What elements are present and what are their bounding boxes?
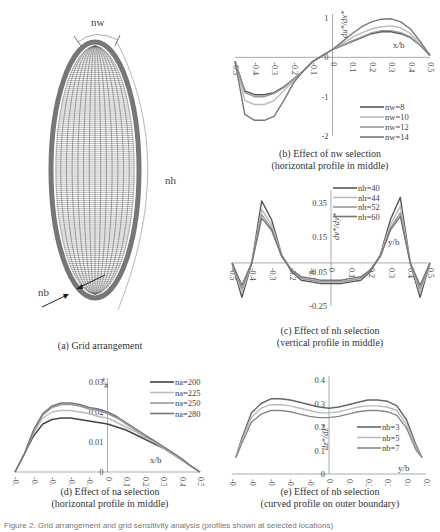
x-tick-label: 0 [104,477,113,481]
x-tick-label: 0.4 [403,479,412,486]
legend: na=200na=225na=250na=280 [150,377,201,419]
x-tick-label: 0.3 [387,62,396,72]
y-tick-label: 1 [324,13,328,23]
x-tick-label: -0.3 [270,62,279,75]
panel-e-nb-effect: -0.5-0.4-0.3-0.2-0.100.10.20.30.40.50.40… [220,366,440,516]
chart-c: -0.5-0.4-0.3-0.2-0.100.10.20.30.40.50.35… [220,182,440,325]
x-tick-label: -0.3 [48,477,57,486]
panel-c-nh-effect: -0.5-0.4-0.3-0.2-0.100.10.20.30.40.50.35… [220,182,440,357]
panel-a-caption: (a) Grid arrangement [0,340,200,352]
nw-label: nw [91,16,105,28]
x-tick-label: 0.2 [364,479,373,486]
figure-caption: Figure 2. Grid arrangement and grid sens… [4,521,333,530]
legend: nb=3nb=5nb=7 [357,422,400,453]
x-axis-label: x/b [393,40,405,50]
y-tick-label: -2 [321,131,328,141]
legend-entry: na=250 [175,398,201,408]
y-tick-label: 0.35 [312,198,327,208]
x-tick-label: 0.1 [345,479,354,486]
y-axis-label: du*/dx* [339,10,349,38]
y-tick-label: 0.4 [314,375,325,385]
panel-b-caption: (b) Effect of nw selection (horizontal p… [220,148,440,172]
legend-entry: nw=14 [385,132,409,142]
legend-entry: nw=12 [385,122,409,132]
x-axis-label: y/b [398,463,410,473]
x-tick-label: 0.1 [122,477,131,486]
caption-line-1: (e) Effect of nb selection [220,486,440,498]
x-tick-label: -0.5 [11,477,20,486]
y-tick-label: -0.25 [309,301,327,311]
chart-e: -0.5-0.4-0.3-0.2-0.100.10.20.30.40.50.40… [220,366,440,486]
panel-b-nw-effect: -0.5-0.4-0.3-0.2-0.100.10.20.30.40.510-1… [220,0,440,180]
panel-c-caption: (c) Effect of nh selection (vertical pro… [220,325,440,349]
legend-entry: na=200 [175,377,201,387]
caption-line-2: (horizontal profile in middle) [220,160,440,172]
x-tick-label: 0.5 [422,479,431,486]
panel-d-na-effect: -0.5-0.4-0.3-0.2-0.100.10.20.30.40.50.03… [0,366,220,516]
legend-entry: nb=7 [382,443,400,453]
x-tick-label: 0.2 [368,62,377,72]
nh-label: nh [165,174,177,186]
chart-d: -0.5-0.4-0.3-0.2-0.100.10.20.30.40.50.03… [0,366,220,486]
x-tick-label: 0 [329,62,338,66]
y-tick-label: -1 [321,92,328,102]
x-tick-label: 0 [325,479,334,483]
legend-entry: nh=40 [358,183,380,193]
x-tick-label: 0.3 [159,477,168,486]
legend-entry: nh=52 [358,202,380,212]
legend: nh=40nh=44nh=52nh=60 [333,183,381,222]
x-tick-label: 0 [327,268,336,272]
x-tick-label: -0.1 [306,479,315,486]
caption-line-1: (d) Effect of na selection [0,486,220,498]
legend-entry: nb=3 [382,422,400,432]
caption-line-1: (c) Effect of nh selection [220,325,440,337]
x-tick-label: -0.2 [67,477,76,486]
legend-entry: na=225 [175,388,201,398]
x-tick-label: -0.3 [267,479,276,486]
caption-line-2: (vertical profile in middle) [220,337,440,349]
legend: nw=8nw=10nw=12nw=14 [360,102,409,142]
x-tick-label: -0.2 [286,479,295,486]
y-tick-label: 0.15 [312,232,327,242]
panel-a-grid-arrangement: nwnhnb (a) Grid arrangement [0,0,220,370]
x-tick-label: -0.4 [30,477,39,486]
y-tick-label: -0.05 [309,267,327,277]
legend-entry: nh=44 [358,193,381,203]
x-tick-label: 0.1 [347,268,356,278]
legend-entry: nb=5 [382,433,400,443]
x-tick-label: 0.1 [348,62,357,72]
y-tick-label: 0.01 [89,437,104,447]
y-axis-label: dz*/dz* [320,423,330,450]
panel-e-caption: (e) Effect of nb selection (curved profi… [220,486,440,510]
legend-entry: na=280 [175,409,201,419]
x-axis-label: x/b [150,455,162,465]
chart-b: -0.5-0.4-0.3-0.2-0.100.10.20.30.40.510-1… [220,0,440,145]
x-tick-label: -0.5 [228,479,237,486]
x-tick-label: -0.4 [251,62,260,75]
x-tick-label: -0.4 [248,479,257,486]
grid-mesh [51,42,139,298]
x-tick-label: 0.3 [383,479,392,486]
x-tick-label: -0.3 [268,268,277,281]
grid-ellipse-diagram: nwnhnb [0,0,220,370]
x-tick-label: 0.4 [407,62,416,72]
x-tick-label: 0.5 [426,62,435,72]
y-tick-label: 0 [321,469,325,479]
caption-line-1: (b) Effect of nw selection [220,148,440,160]
legend-entry: nh=60 [358,212,380,222]
x-axis-label: y/b [388,237,400,247]
nb-label: nb [38,286,50,298]
legend-entry: nw=10 [385,112,409,122]
caption-line-2: (horizontal profile in middle) [0,498,220,510]
y-tick-label: 0 [99,467,103,477]
x-tick-label: -0.1 [85,477,94,486]
panel-d-caption: (d) Effect of na selection (horizontal p… [0,486,220,510]
legend-entry: nw=8 [385,102,404,112]
x-tick-label: 0.4 [178,477,187,486]
y-axis-label: w* [100,377,110,388]
x-tick-label: -0.2 [290,62,299,75]
x-tick-label: 0.2 [141,477,150,486]
x-tick-label: 0.3 [387,268,396,278]
x-tick-label: 0.5 [196,477,205,486]
caption-line-2: (curved profile on outer boundary) [220,498,440,510]
